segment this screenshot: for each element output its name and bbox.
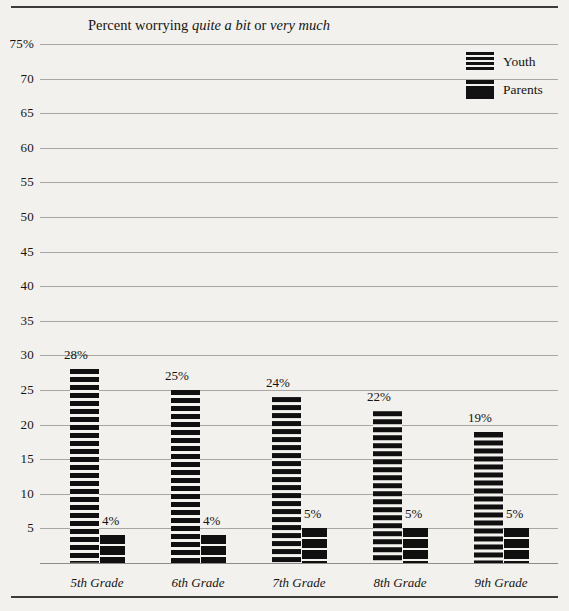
bar-value-label-youth: 25% [165,369,189,382]
plot-area: 75%70656055504540353025201510528%4%5th G… [0,0,569,611]
gridline-35 [40,321,558,322]
y-axis-tick-label: 75% [0,37,34,50]
chart-page: Percent worrying quite a bit or very muc… [0,0,569,611]
bar-parents-5th-grade [100,535,125,563]
gridline-70 [40,79,558,80]
bar-value-label-parents: 4% [203,514,220,527]
y-axis-tick-label: 65 [0,106,34,119]
x-axis-label-9th-grade: 9th Grade [452,576,550,589]
y-axis-tick-label: 40 [0,279,34,292]
gridline-60 [40,148,558,149]
x-axis-label-7th-grade: 7th Grade [250,576,348,589]
bar-value-label-youth: 28% [64,348,88,361]
bar-value-label-parents: 4% [102,514,119,527]
y-axis-tick-label: 35 [0,314,34,327]
bar-youth-5th-grade [70,369,99,563]
y-axis-tick-label: 20 [0,418,34,431]
y-axis-tick-label: 45 [0,245,34,258]
bar-parents-6th-grade [201,535,226,563]
bar-youth-9th-grade [474,432,503,563]
x-axis-label-6th-grade: 6th Grade [149,576,247,589]
bar-value-label-youth: 24% [266,376,290,389]
bar-parents-7th-grade [302,528,327,563]
y-axis-tick-label: 15 [0,452,34,465]
bar-parents-9th-grade [504,528,529,563]
y-axis-tick-label: 70 [0,72,34,85]
gridline-50 [40,217,558,218]
y-axis-tick-label: 55 [0,175,34,188]
y-axis-tick-label: 5 [0,521,34,534]
bar-value-label-parents: 5% [506,507,523,520]
bar-value-label-parents: 5% [304,507,321,520]
gridline-30 [40,355,558,356]
bar-youth-8th-grade [373,411,402,563]
x-axis-label-8th-grade: 8th Grade [351,576,449,589]
x-axis-baseline [40,563,558,564]
y-axis-tick-label: 25 [0,383,34,396]
gridline-45 [40,252,558,253]
gridline-55 [40,182,558,183]
gridline-75 [40,44,558,45]
gridline-25 [40,390,558,391]
y-axis-tick-label: 60 [0,141,34,154]
bar-value-label-parents: 5% [405,507,422,520]
y-axis-tick-label: 50 [0,210,34,223]
y-axis-tick-label: 10 [0,487,34,500]
bar-value-label-youth: 19% [468,411,492,424]
bar-youth-6th-grade [171,390,200,563]
y-axis-tick-label: 30 [0,348,34,361]
bar-parents-8th-grade [403,528,428,563]
gridline-40 [40,286,558,287]
gridline-65 [40,113,558,114]
bar-youth-7th-grade [272,397,301,563]
bar-value-label-youth: 22% [367,390,391,403]
x-axis-label-5th-grade: 5th Grade [48,576,146,589]
